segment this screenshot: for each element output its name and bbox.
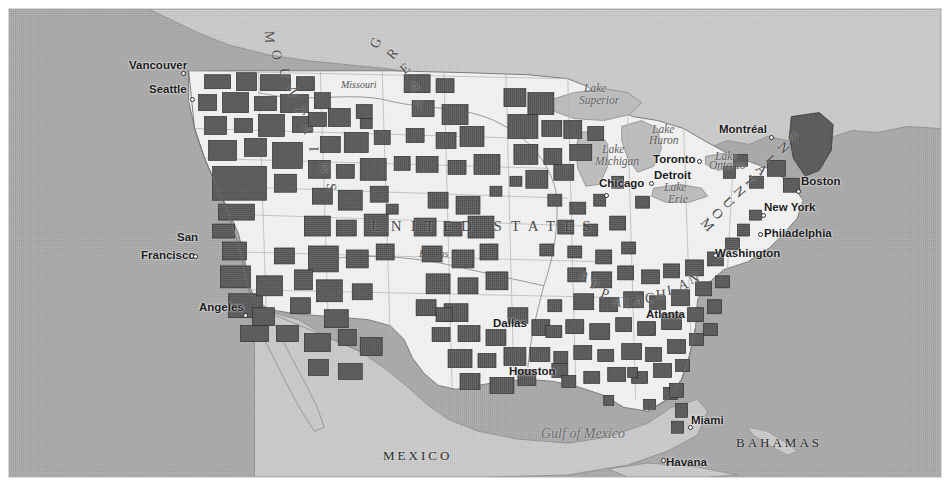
city-dot-havana (661, 458, 666, 463)
map-figure: VancouverSeattleSanFranciscoAngelesDalla… (0, 0, 948, 485)
region-label-rocky-mountains-char: I (305, 146, 321, 151)
region-label-appalachian-char: A (633, 294, 644, 311)
city-dot-montréal (769, 135, 774, 140)
map-graphic (9, 9, 941, 477)
region-label-rocky-mountains-char: N (316, 163, 332, 174)
map-canvas[interactable]: VancouverSeattleSanFranciscoAngelesDalla… (8, 8, 942, 478)
city-dot-washington (713, 253, 718, 258)
region-label-rocky-mountains-char: M (261, 30, 277, 43)
region-label-appalachian-char: H (655, 287, 666, 304)
region-label-rocky-mountains-char: O (268, 50, 284, 61)
region-label-rocky-mountains-char: U (276, 68, 292, 79)
city-dot-chicago (604, 193, 609, 198)
region-label-rocky-mountains-char: S (323, 183, 339, 191)
region-label-rocky-mountains-char: N (284, 87, 300, 98)
city-dot-vancouver (181, 71, 186, 76)
city-dot-miami (688, 425, 693, 430)
region-label-rocky-mountains-char: A (300, 125, 316, 136)
region-label-appalachian-char: C (645, 291, 654, 307)
city-dot-seattle (190, 97, 195, 102)
region-label-rocky-mountains-char: T (291, 106, 307, 115)
region-label-great-plains-char: T (414, 97, 425, 114)
city-dot-detroit (649, 181, 654, 186)
city-dot-new-york (761, 213, 766, 218)
city-dot-boston (796, 189, 801, 194)
city-dot-philadelphia (758, 232, 763, 237)
city-dot-angeles (243, 313, 248, 318)
city-dot-toronto (697, 159, 702, 164)
city-dot-francisco (193, 254, 198, 259)
